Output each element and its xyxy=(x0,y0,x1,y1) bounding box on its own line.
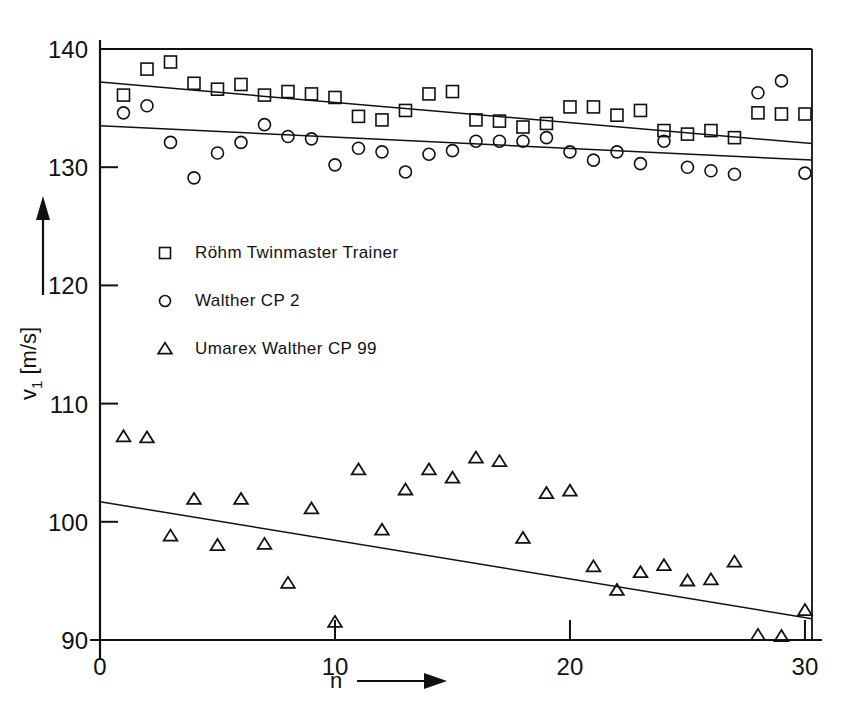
legend-item-label: Umarex Walther CP 99 xyxy=(195,339,377,358)
data-point-circle-marker xyxy=(470,135,482,147)
data-point-circle-marker xyxy=(517,135,529,147)
data-point-triangle-marker xyxy=(399,484,413,495)
data-point-triangle-marker xyxy=(493,455,507,466)
data-point-circle-marker xyxy=(376,146,388,158)
data-point-circle-marker xyxy=(235,136,247,148)
data-point-triangle-marker xyxy=(516,532,530,543)
data-point-triangle-marker xyxy=(281,577,295,588)
data-point-circle-marker xyxy=(634,158,646,170)
data-point-triangle-marker xyxy=(446,472,460,483)
data-point-triangle-marker xyxy=(657,559,671,570)
data-point-triangle-marker xyxy=(587,560,601,571)
data-point-circle-marker xyxy=(399,166,411,178)
data-point-triangle-marker xyxy=(563,485,577,496)
data-point-triangle-marker xyxy=(211,539,225,550)
data-point-circle-marker xyxy=(258,119,270,131)
data-point-square-marker xyxy=(188,77,200,89)
x-tick-label: 30 xyxy=(792,653,819,680)
data-point-triangle-marker xyxy=(634,566,648,577)
data-point-circle-marker xyxy=(540,132,552,144)
data-point-triangle-marker xyxy=(704,573,718,584)
data-point-square-marker xyxy=(141,63,153,75)
data-point-triangle-marker xyxy=(422,463,436,474)
data-point-square-marker xyxy=(399,104,411,116)
data-point-square-marker xyxy=(164,56,176,68)
legend-1-square-marker xyxy=(160,248,171,259)
y-axis-title-sub: 1 xyxy=(28,381,45,389)
data-point-triangle-marker xyxy=(751,629,765,640)
data-point-circle-marker xyxy=(164,136,176,148)
x-tick-label: 20 xyxy=(557,653,584,680)
data-point-circle-marker xyxy=(587,154,599,166)
data-point-square-marker xyxy=(376,114,388,126)
chart-figure: 90100110120130140 0102030 v1 [m/s] n Röh… xyxy=(0,0,853,727)
x-tick-label: 0 xyxy=(93,653,106,680)
data-point-circle-marker xyxy=(705,165,717,177)
data-point-triangle-marker xyxy=(540,487,554,498)
legend-3-triangle-marker xyxy=(158,343,172,354)
data-point-circle-marker xyxy=(681,161,693,173)
y-tick-label: 100 xyxy=(48,509,88,536)
y-axis-title-base: v xyxy=(16,389,41,400)
data-point-circle-marker xyxy=(423,148,435,160)
x-axis-title-label: n xyxy=(330,668,342,693)
data-point-square-marker xyxy=(611,109,623,121)
y-tick-label: 120 xyxy=(48,272,88,299)
data-point-triangle-marker xyxy=(234,493,248,504)
data-point-square-marker xyxy=(117,89,129,101)
data-point-triangle-marker xyxy=(681,575,695,586)
data-point-circle-marker xyxy=(352,142,364,154)
data-point-triangle-marker xyxy=(187,493,201,504)
series-2-markers xyxy=(117,75,810,184)
data-point-circle-marker xyxy=(775,75,787,87)
data-point-circle-marker xyxy=(188,172,200,184)
data-point-square-marker xyxy=(305,88,317,100)
data-point-square-marker xyxy=(235,78,247,90)
data-point-circle-marker xyxy=(728,168,740,180)
trend-line xyxy=(100,502,812,619)
legend-item-label: Röhm Twinmaster Trainer xyxy=(195,243,399,262)
data-point-square-marker xyxy=(587,101,599,113)
data-point-triangle-marker xyxy=(375,524,389,535)
y-axis-ticks xyxy=(100,49,118,640)
y-axis-title: v1 [m/s] xyxy=(16,327,45,400)
x-axis-tick-labels: 0102030 xyxy=(93,653,818,680)
data-point-circle-marker xyxy=(211,147,223,159)
data-point-square-marker xyxy=(258,89,270,101)
data-point-circle-marker xyxy=(799,167,811,179)
data-point-triangle-marker xyxy=(352,463,366,474)
data-point-square-marker xyxy=(470,114,482,126)
data-point-square-marker xyxy=(681,128,693,140)
data-point-square-marker xyxy=(446,86,458,98)
data-point-triangle-marker xyxy=(140,431,154,442)
y-tick-label: 140 xyxy=(48,36,88,63)
data-point-square-marker xyxy=(634,104,646,116)
y-tick-label: 130 xyxy=(48,154,88,181)
data-point-circle-marker xyxy=(752,87,764,99)
y-tick-label: 90 xyxy=(61,627,88,654)
y-axis-tick-labels: 90100110120130140 xyxy=(48,36,88,654)
data-point-triangle-marker xyxy=(728,556,742,567)
svg-text:v1 [m/s]: v1 [m/s] xyxy=(16,327,45,400)
data-point-triangle-marker xyxy=(258,538,272,549)
data-point-circle-marker xyxy=(329,159,341,171)
data-point-square-marker xyxy=(775,108,787,120)
data-point-triangle-marker xyxy=(305,502,319,513)
legend-2-circle-marker xyxy=(160,296,171,307)
data-point-square-marker xyxy=(282,86,294,98)
data-point-triangle-marker xyxy=(117,430,131,441)
data-point-square-marker xyxy=(752,107,764,119)
x-axis-ticks xyxy=(100,620,805,640)
data-point-square-marker xyxy=(423,88,435,100)
series-3-markers xyxy=(117,430,812,641)
data-point-square-marker xyxy=(799,108,811,120)
data-point-square-marker xyxy=(352,110,364,122)
data-point-circle-marker xyxy=(564,146,576,158)
data-point-square-marker xyxy=(517,121,529,133)
data-point-triangle-marker xyxy=(164,530,178,541)
scatter-plot-svg: 90100110120130140 0102030 v1 [m/s] n Röh… xyxy=(0,0,853,727)
data-point-triangle-marker xyxy=(469,452,483,463)
y-tick-label: 110 xyxy=(50,391,88,418)
data-point-circle-marker xyxy=(446,145,458,157)
series-1-markers xyxy=(117,56,810,144)
